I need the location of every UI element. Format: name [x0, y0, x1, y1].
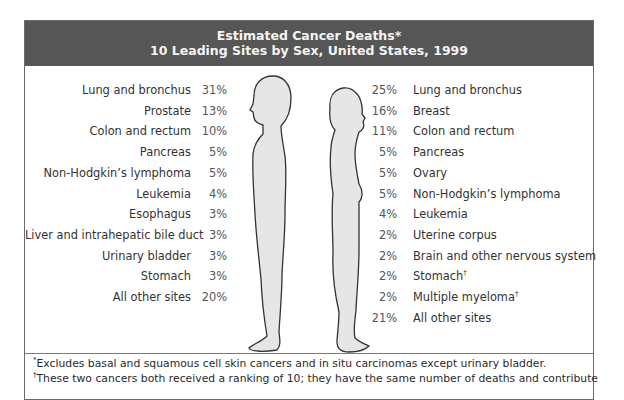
chart-panel: Estimated Cancer Deaths* 10 Leading Site…: [24, 20, 594, 400]
footnote-divider: [25, 353, 593, 354]
male-site-label: All other sites: [25, 288, 191, 306]
male-site-label: Prostate: [25, 102, 191, 120]
male-site-label: Liver and intrahepatic bile duct: [25, 226, 191, 244]
female-site-label: All other sites: [413, 309, 491, 327]
female-site-name: Leukemia: [413, 207, 468, 221]
male-site-percent: 31%: [197, 81, 227, 99]
female-silhouette-icon: [319, 84, 379, 364]
male-site-percent: 3%: [197, 205, 227, 223]
male-site-percent: 13%: [197, 102, 227, 120]
male-site-percent: 5%: [197, 164, 227, 182]
female-site-label: Multiple myeloma†: [413, 288, 518, 306]
footnote-star: *Excludes basal and squamous cell skin c…: [33, 357, 546, 370]
female-site-name: Uterine corpus: [413, 228, 497, 242]
footnote-dagger: †These two cancers both received a ranki…: [33, 372, 598, 385]
female-site-label: Ovary: [413, 164, 447, 182]
male-site-label: Lung and bronchus: [25, 81, 191, 99]
female-site-label: Pancreas: [413, 143, 464, 161]
female-site-name: Pancreas: [413, 145, 464, 159]
female-site-name: Multiple myeloma: [413, 290, 515, 304]
male-column: Lung and bronchus31%Prostate13%Colon and…: [25, 21, 255, 351]
female-site-name: Stomach: [413, 269, 463, 283]
male-site-percent: 20%: [197, 288, 227, 306]
female-site-label: Stomach†: [413, 267, 467, 285]
female-site-label: Breast: [413, 102, 450, 120]
dagger-mark: †: [515, 290, 519, 298]
male-site-label: Pancreas: [25, 143, 191, 161]
male-site-percent: 5%: [197, 143, 227, 161]
female-site-name: Lung and bronchus: [413, 83, 522, 97]
male-silhouette-icon: [241, 74, 301, 354]
female-site-label: Brain and other nervous system: [413, 247, 596, 265]
male-site-percent: 3%: [197, 226, 227, 244]
male-site-percent: 3%: [197, 267, 227, 285]
male-site-percent: 3%: [197, 247, 227, 265]
male-site-label: Non-Hodgkin’s lymphoma: [25, 164, 191, 182]
female-site-name: Colon and rectum: [413, 124, 514, 138]
male-site-percent: 4%: [197, 185, 227, 203]
male-site-label: Leukemia: [25, 185, 191, 203]
male-site-label: Colon and rectum: [25, 122, 191, 140]
female-site-name: All other sites: [413, 311, 491, 325]
female-site-label: Lung and bronchus: [413, 81, 522, 99]
dagger-mark: †: [463, 269, 467, 277]
female-site-label: Uterine corpus: [413, 226, 497, 244]
female-site-label: Leukemia: [413, 205, 468, 223]
female-site-label: Colon and rectum: [413, 122, 514, 140]
male-site-percent: 10%: [197, 122, 227, 140]
female-column: 25%Lung and bronchus16%Breast11%Colon an…: [367, 21, 597, 351]
female-site-name: Breast: [413, 104, 450, 118]
female-site-name: Brain and other nervous system: [413, 249, 596, 263]
female-site-name: Ovary: [413, 166, 447, 180]
female-site-label: Non-Hodgkin’s lymphoma: [413, 185, 560, 203]
female-site-name: Non-Hodgkin’s lymphoma: [413, 187, 560, 201]
male-site-label: Stomach: [25, 267, 191, 285]
male-site-label: Urinary bladder: [25, 247, 191, 265]
male-site-label: Esophagus: [25, 205, 191, 223]
